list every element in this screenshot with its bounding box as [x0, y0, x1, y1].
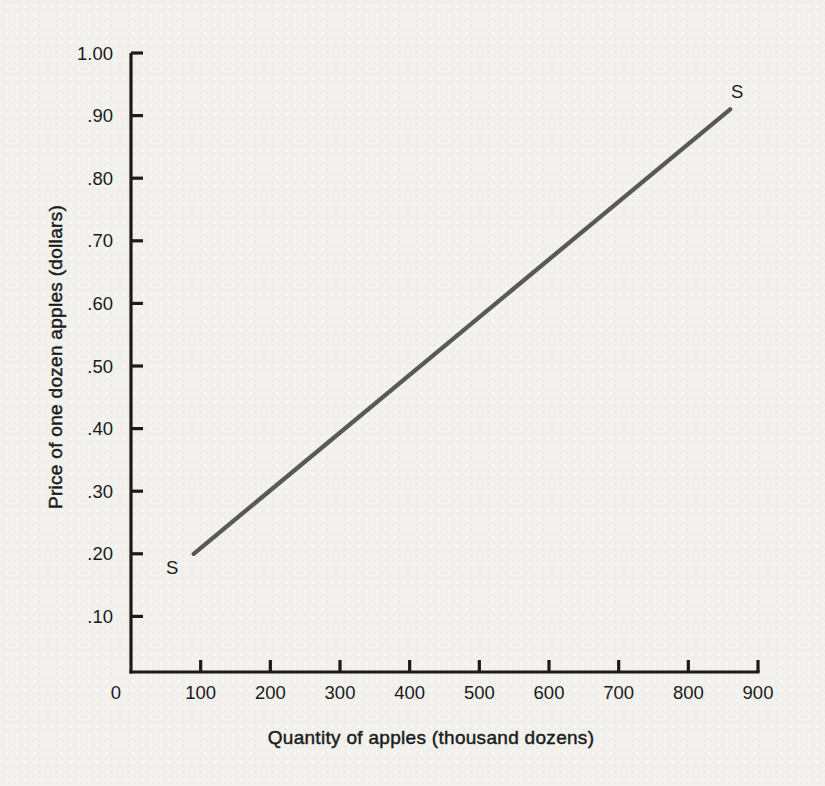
x-tick-label: 600 — [534, 682, 565, 703]
y-tick-label: .10 — [87, 606, 113, 627]
x-tick-label: 700 — [603, 682, 634, 703]
y-tick-label: .60 — [87, 293, 113, 314]
x-tick-label: 300 — [325, 682, 356, 703]
x-tick-label: 900 — [743, 682, 774, 703]
y-tick-label: 1.00 — [77, 43, 113, 64]
x-axis-title: Quantity of apples (thousand dozens) — [268, 727, 595, 749]
supply-label-start: S — [166, 557, 178, 578]
y-tick-label: .80 — [87, 168, 113, 189]
x-tick-label: 200 — [255, 682, 286, 703]
x-tick-label: 800 — [673, 682, 704, 703]
supply-curve-plot-area: 1.00.90.80.70.60.50.40.30.20.10100200300… — [0, 0, 825, 786]
y-tick-label: .30 — [87, 481, 113, 502]
y-axis-title: Price of one dozen apples (dollars) — [45, 205, 67, 509]
y-tick-label: .90 — [87, 105, 113, 126]
scanned-textbook-chart-page: 1.00.90.80.70.60.50.40.30.20.10100200300… — [0, 0, 825, 786]
x-origin-label: 0 — [111, 682, 121, 703]
y-tick-label: .40 — [87, 418, 113, 439]
supply-label-end: S — [731, 81, 743, 102]
y-tick-label: .70 — [87, 230, 113, 251]
x-tick-label: 500 — [464, 682, 495, 703]
y-tick-label: .50 — [87, 356, 113, 377]
x-tick-label: 100 — [185, 682, 216, 703]
supply-line — [194, 109, 730, 553]
x-tick-label: 400 — [394, 682, 425, 703]
y-tick-label: .20 — [87, 543, 113, 564]
